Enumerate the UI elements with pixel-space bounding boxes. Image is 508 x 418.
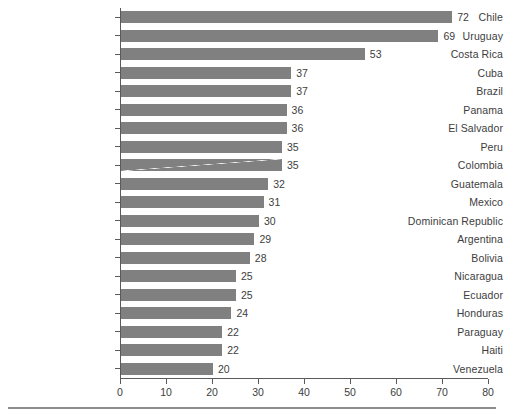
category-label: Dominican Republic: [387, 212, 503, 230]
bar-row: Honduras24: [0, 304, 503, 322]
bar-value-label: 35: [287, 156, 299, 174]
x-axis-tick-label: 10: [146, 386, 186, 398]
x-axis-tick: [488, 379, 489, 384]
bar: [121, 289, 236, 301]
bar: [121, 104, 287, 116]
category-label: Peru: [387, 138, 503, 156]
x-axis-tick-label: 50: [330, 386, 370, 398]
bar-row: Colombia35: [0, 156, 503, 174]
bar-row: Peru35: [0, 138, 503, 156]
y-axis-tick: [115, 109, 120, 110]
y-axis-tick: [115, 72, 120, 73]
bar-row: Nicaragua25: [0, 267, 503, 285]
x-axis-tick-label: 70: [422, 386, 462, 398]
bar: [121, 178, 268, 190]
y-axis-tick: [115, 35, 120, 36]
x-axis-tick-label: 0: [100, 386, 140, 398]
x-axis-tick-label: 30: [238, 386, 278, 398]
bar-value-label: 29: [259, 230, 271, 248]
bar-value-label: 37: [296, 64, 308, 82]
bar-value-label: 69: [443, 27, 455, 45]
bar-value-label: 35: [287, 138, 299, 156]
category-label: Panama: [387, 101, 503, 119]
bar-row: Venezuela20: [0, 360, 503, 378]
y-axis-tick: [115, 220, 120, 221]
bar-row: Uruguay69: [0, 27, 503, 45]
category-label: Bolivia: [387, 249, 503, 267]
bar-value-label: 31: [269, 193, 281, 211]
y-axis-tick: [115, 313, 120, 314]
category-label: Mexico: [387, 193, 503, 211]
bar-value-label: 37: [296, 82, 308, 100]
category-label: Argentina: [387, 230, 503, 248]
y-axis-tick: [115, 128, 120, 129]
category-label: Ecuador: [387, 286, 503, 304]
bar-value-label: 22: [227, 341, 239, 359]
bar-row: Bolivia28: [0, 249, 503, 267]
bar-value-label: 36: [292, 101, 304, 119]
category-label: Costa Rica: [387, 45, 503, 63]
bar-row: Costa Rica53: [0, 45, 503, 63]
y-axis-tick: [115, 183, 120, 184]
y-axis-tick: [115, 91, 120, 92]
bar-row: Brazil37: [0, 82, 503, 100]
y-axis-tick: [115, 146, 120, 147]
x-axis-tick: [350, 379, 351, 384]
x-axis-tick: [166, 379, 167, 384]
y-axis-tick: [115, 350, 120, 351]
bar: [121, 307, 231, 319]
bar: [121, 48, 365, 60]
bar: [121, 11, 452, 23]
bar-value-label: 72: [457, 8, 469, 26]
bar-row: Guatemala32: [0, 175, 503, 193]
bar-value-label: 36: [292, 119, 304, 137]
bar-row: Paraguay22: [0, 323, 503, 341]
y-axis-tick: [115, 276, 120, 277]
y-axis-tick: [115, 17, 120, 18]
bar: [121, 159, 282, 171]
x-axis-tick-label: 20: [192, 386, 232, 398]
bar-value-label: 22: [227, 323, 239, 341]
bottom-divider-rule: [8, 407, 496, 409]
y-axis-tick: [115, 165, 120, 166]
bar-value-label: 25: [241, 267, 253, 285]
y-axis-tick: [115, 368, 120, 369]
x-axis-tick: [304, 379, 305, 384]
bar: [121, 363, 213, 375]
bar-row: El Salvador36: [0, 119, 503, 137]
category-label: Paraguay: [387, 323, 503, 341]
x-axis-tick: [396, 379, 397, 384]
category-label: Brazil: [387, 82, 503, 100]
bar-row: Haiti22: [0, 341, 503, 359]
bar: [121, 196, 264, 208]
x-axis-tick-label: 40: [284, 386, 324, 398]
category-label: Honduras: [387, 304, 503, 322]
bar-row: Chile72: [0, 8, 503, 26]
bar: [121, 141, 282, 153]
bar-row: Cuba37: [0, 64, 503, 82]
bar: [121, 215, 259, 227]
y-axis-tick: [115, 239, 120, 240]
bar: [121, 344, 222, 356]
bar: [121, 67, 291, 79]
y-axis-tick: [115, 331, 120, 332]
bar: [121, 30, 438, 42]
category-label: Colombia: [387, 156, 503, 174]
bar-row: Mexico31: [0, 193, 503, 211]
x-axis-tick: [258, 379, 259, 384]
category-label: Haiti: [387, 341, 503, 359]
bar-value-label: 28: [255, 249, 267, 267]
y-axis-tick: [115, 202, 120, 203]
bar-row: Dominican Republic30: [0, 212, 503, 230]
category-label: Venezuela: [387, 360, 503, 378]
bar: [121, 270, 236, 282]
y-axis-tick: [115, 294, 120, 295]
bar-value-label: 25: [241, 286, 253, 304]
x-axis-tick-label: 80: [468, 386, 508, 398]
category-label: El Salvador: [387, 119, 503, 137]
bar-row: Ecuador25: [0, 286, 503, 304]
x-axis-tick: [120, 379, 121, 384]
category-label: Cuba: [387, 64, 503, 82]
bar-value-label: 30: [264, 212, 276, 230]
bar-value-label: 32: [273, 175, 285, 193]
